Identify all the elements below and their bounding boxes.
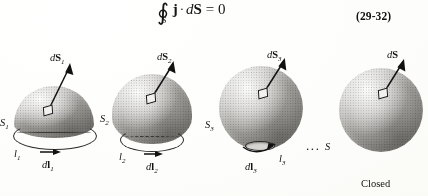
closed-surface-caption: Closed [361,178,390,189]
figure-2: dS2 S2 l2 dl2 [100,36,210,196]
label-surface-4: S [325,142,330,153]
equation-row: ∮ S j·dS = 0 (29-32) [0,0,428,36]
area-vector-arrow-4 [315,36,428,196]
figure-1: dS1 S1 l1 dl1 [0,36,108,196]
boundary-direction-arrow-3 [205,36,317,196]
continuation-ellipsis: ... [306,138,321,154]
dot-product-operator: · [178,1,186,16]
figure-3: dS3 S3 dl3 l3 [205,36,317,196]
figure-4: dS S [315,36,428,196]
surface-vector: S [194,1,202,17]
contour-integral-icon: ∮ S [157,1,169,24]
equation-equals-zero: = 0 [206,1,226,17]
differential-d: d [186,1,194,17]
label-area-element-4: dS [387,50,398,61]
equation-number: (29-32) [356,10,391,22]
boundary-direction-arrow-2 [100,36,210,196]
boundary-direction-arrow-1 [0,36,108,196]
current-density-vector: j [173,1,178,17]
integral-subscript: S [162,16,166,25]
surface-integral-equation: ∮ S j·dS = 0 [157,1,225,24]
